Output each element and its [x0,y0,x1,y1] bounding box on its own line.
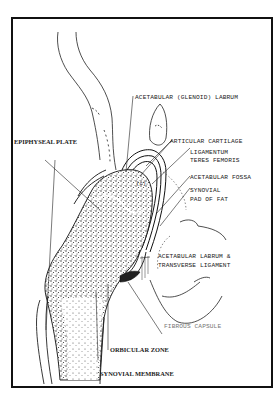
label-head-marker: (c) [136,180,146,187]
label-synovial-pad-line1: SYNOVIAL [190,187,221,194]
pubic-bone-outline [149,104,166,145]
hip-joint-illustration [0,0,280,396]
label-orbicular-zone: ORBICULAR ZONE [110,346,169,353]
soft-tissue-outline [150,220,226,323]
label-epiphyseal-plate: EPIPHYSEAL PLATE [14,138,77,145]
label-articular-cartilage: ARTICULAR CARTILAGE [170,138,242,145]
label-labrum-transverse-line1: ACETABULAR LABRUM & [158,253,230,260]
label-acetabular-glenoid-labrum: ACETABULAR (GLENOID) LABRUM [135,94,238,101]
label-ligamentum-line1: LIGAMENTUM [190,149,228,156]
ilium-outline [57,32,116,170]
label-synovial-pad-line2: PAD OF FAT [190,196,228,203]
label-labrum-transverse-line2: TRANSVERSE LIGAMENT [158,262,230,269]
label-acetabular-fossa: ACETABULAR FOSSA [190,174,251,181]
label-synovial-membrane: SYNOVIAL MEMBRANE [100,370,174,377]
label-fibrous-capsule: FIBROUS CAPSULE [164,323,221,330]
fat-pad-hatching [142,256,148,280]
label-ligamentum-line2: TERES FEMORIS [190,157,240,164]
